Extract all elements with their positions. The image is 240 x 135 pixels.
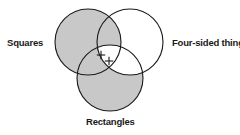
set-label-squares: Squares: [7, 38, 43, 48]
venn-diagram: [0, 0, 240, 135]
shaded-region-fill: [0, 0, 240, 135]
set-label-rectangles: Rectangles: [86, 117, 135, 127]
set-label-four-sided-things: Four-sided things: [172, 38, 240, 48]
